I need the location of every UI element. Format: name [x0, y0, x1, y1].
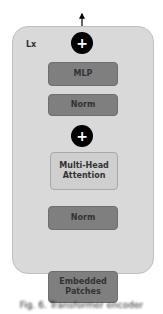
figure-caption: Fig. 6. Transformer encoder — [0, 300, 163, 310]
mlp-block: MLP — [48, 62, 118, 86]
norm-block-bottom: Norm — [48, 206, 118, 230]
norm-block-top: Norm — [48, 94, 118, 116]
add-node-top: + — [71, 32, 93, 54]
add-node-bottom: + — [71, 125, 93, 147]
embedded-patches-block: Embedded Patches — [48, 271, 118, 303]
repeat-label: Lx — [26, 40, 36, 49]
multi-head-attention-block: Multi-Head Attention — [50, 152, 118, 190]
